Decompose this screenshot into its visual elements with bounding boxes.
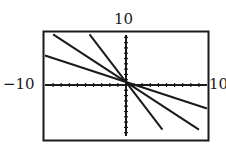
graph-window (0, 0, 226, 144)
axes (45, 35, 207, 136)
